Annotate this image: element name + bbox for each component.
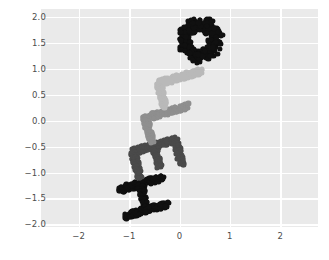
scatter-point xyxy=(183,70,188,75)
scatter-point xyxy=(196,51,201,56)
scatter-point xyxy=(170,74,175,79)
scatter-point xyxy=(200,51,205,56)
scatter-point xyxy=(189,49,194,54)
scatter-point xyxy=(141,192,146,197)
scatter-point xyxy=(157,160,162,165)
scatter-point xyxy=(140,179,145,184)
scatter-point xyxy=(165,80,170,85)
scatter-point xyxy=(132,159,137,164)
scatter-point xyxy=(217,46,222,51)
scatter-point xyxy=(133,154,138,159)
scatter-point xyxy=(205,49,210,54)
scatter-point xyxy=(167,80,172,85)
scatter-point xyxy=(155,157,160,162)
scatter-point xyxy=(153,176,158,181)
scatter-point xyxy=(136,167,141,172)
scatter-point xyxy=(213,34,218,39)
scatter-point xyxy=(193,54,198,59)
scatter-point xyxy=(190,29,195,34)
scatter-point xyxy=(157,82,162,87)
scatter-point xyxy=(189,30,194,35)
scatter-point xyxy=(146,126,151,131)
scatter-point xyxy=(185,46,190,51)
scatter-point xyxy=(158,81,163,86)
scatter-point xyxy=(165,140,170,145)
scatter-point xyxy=(150,139,155,144)
scatter-point xyxy=(131,151,136,156)
scatter-point xyxy=(182,102,187,107)
scatter-point xyxy=(185,70,190,75)
scatter-point xyxy=(183,101,188,106)
scatter-point xyxy=(152,150,157,155)
scatter-point xyxy=(169,136,174,141)
scatter-point xyxy=(174,73,179,78)
scatter-point xyxy=(145,127,150,132)
scatter-point xyxy=(132,153,137,158)
scatter-point xyxy=(150,135,155,140)
scatter-point xyxy=(174,106,179,111)
scatter-point xyxy=(154,174,159,179)
scatter-point xyxy=(165,136,170,141)
scatter-point xyxy=(139,185,144,190)
scatter-point xyxy=(131,157,136,162)
scatter-point xyxy=(151,202,156,207)
scatter-point xyxy=(165,139,170,144)
scatter-point xyxy=(170,136,175,141)
scatter-point xyxy=(154,152,159,157)
scatter-point xyxy=(137,184,142,189)
scatter-point xyxy=(211,47,216,52)
scatter-point xyxy=(150,140,155,145)
scatter-point xyxy=(190,54,195,59)
scatter-point xyxy=(144,201,149,206)
scatter-point xyxy=(138,193,143,198)
scatter-point xyxy=(216,29,221,34)
scatter-point xyxy=(198,24,203,29)
scatter-point xyxy=(141,199,146,204)
scatter-point xyxy=(145,125,150,130)
scatter-point xyxy=(160,85,165,90)
scatter-point xyxy=(190,57,195,62)
scatter-point xyxy=(171,140,176,145)
scatter-point xyxy=(207,48,212,53)
scatter-point xyxy=(138,185,143,190)
scatter-point xyxy=(134,160,139,165)
scatter-point xyxy=(132,213,137,218)
scatter-point xyxy=(142,205,147,210)
scatter-point xyxy=(164,81,169,86)
scatter-point xyxy=(187,50,192,55)
scatter-point xyxy=(153,155,158,160)
scatter-point xyxy=(207,30,212,35)
scatter-point xyxy=(144,206,149,211)
scatter-point xyxy=(151,139,156,144)
scatter-point xyxy=(131,164,136,169)
scatter-point xyxy=(147,208,152,213)
scatter-point xyxy=(163,99,168,104)
scatter-point xyxy=(160,176,165,181)
scatter-point xyxy=(198,50,203,55)
scatter-point xyxy=(137,182,142,187)
scatter-point xyxy=(137,175,142,180)
scatter-point xyxy=(134,164,139,169)
scatter-point xyxy=(197,28,202,33)
scatter-point xyxy=(191,30,196,35)
scatter-point xyxy=(121,188,126,193)
scatter-point xyxy=(138,192,143,197)
scatter-point xyxy=(163,96,168,101)
scatter-point xyxy=(165,75,170,80)
scatter-point xyxy=(137,166,142,171)
scatter-point xyxy=(210,26,215,31)
scatter-point xyxy=(134,185,139,190)
scatter-point xyxy=(157,158,162,163)
scatter-point xyxy=(146,176,151,181)
scatter-point xyxy=(135,182,140,187)
scatter-point xyxy=(172,141,177,146)
scatter-point xyxy=(153,176,158,181)
scatter-point xyxy=(208,46,213,51)
scatter-point xyxy=(134,185,139,190)
scatter-point xyxy=(198,25,203,30)
scatter-point xyxy=(209,32,214,37)
scatter-point xyxy=(123,216,128,221)
scatter-point xyxy=(160,203,165,208)
scatter-point xyxy=(194,25,199,30)
scatter-point xyxy=(145,199,150,204)
